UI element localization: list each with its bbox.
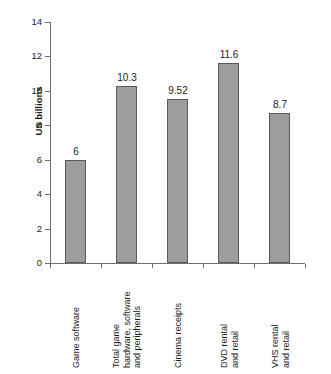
- y-axis-tick-label: 2: [12, 224, 42, 234]
- x-axis-tick: [305, 264, 306, 268]
- y-axis-tick-label: 10: [12, 86, 42, 96]
- x-axis-line: [50, 263, 305, 264]
- y-axis-tick-label: 4: [12, 189, 42, 199]
- y-axis-tick: [45, 91, 50, 92]
- bar-value-label: 10.3: [102, 72, 152, 83]
- y-axis-tick-label: 6: [12, 155, 42, 165]
- x-axis-category-label-line: and retail: [230, 268, 241, 368]
- y-axis-tick: [45, 125, 50, 126]
- x-axis-category-label-line: and peripherals: [132, 268, 143, 368]
- bar-value-label: 8.7: [255, 99, 305, 110]
- x-axis-category-label: DVD rentaland retail: [219, 268, 240, 368]
- x-axis-tick: [50, 264, 51, 268]
- y-axis-tick-label: 0: [12, 258, 42, 268]
- y-axis-line: [50, 22, 51, 264]
- bar-value-label: 9.52: [153, 85, 203, 96]
- x-axis-category-label: VHS rentaland retail: [270, 268, 291, 368]
- bar: [65, 160, 86, 263]
- x-axis-category-label-line: Cinema receipts: [173, 268, 184, 368]
- y-axis-tick-label: 14: [12, 17, 42, 27]
- y-axis-tick: [45, 22, 50, 23]
- x-axis-tick: [101, 264, 102, 268]
- x-axis-category-label-line: VHS rental: [270, 268, 281, 368]
- y-axis-tick-label-text: 14: [14, 17, 42, 27]
- y-axis-tick: [45, 194, 50, 195]
- x-axis-category-label-line: hardware, software: [122, 268, 133, 368]
- y-axis-tick: [45, 56, 50, 57]
- x-axis-tick: [203, 264, 204, 268]
- y-axis-tick: [45, 229, 50, 230]
- bar-value-label: 11.6: [204, 49, 254, 60]
- y-axis-tick-label-text: 12: [14, 51, 42, 61]
- x-axis-tick: [254, 264, 255, 268]
- bar-chart: US billions 02468101214 610.39.5211.68.7…: [0, 0, 331, 374]
- y-axis-tick-label-text: 2: [14, 224, 42, 234]
- y-axis-tick-label-text: 8: [14, 120, 42, 130]
- x-axis-category-label-line: Total game: [111, 268, 122, 368]
- bar-value-label: 6: [51, 146, 101, 157]
- bar: [116, 86, 137, 263]
- y-axis-tick-label-text: 6: [14, 155, 42, 165]
- bar: [269, 113, 290, 263]
- x-axis-category-label: Total gamehardware, softwareand peripher…: [111, 268, 143, 368]
- x-axis-category-label: Cinema receipts: [173, 268, 184, 368]
- y-axis-tick-label: 12: [12, 51, 42, 61]
- y-axis-tick-label-text: 10: [14, 86, 42, 96]
- y-axis-tick: [45, 160, 50, 161]
- y-axis-tick-label: 8: [12, 120, 42, 130]
- x-axis-category-label: Game software: [71, 268, 82, 368]
- bar: [167, 99, 188, 263]
- x-axis-category-label-line: and retail: [281, 268, 292, 368]
- y-axis-tick-label-text: 4: [14, 189, 42, 199]
- x-axis-category-label-line: Game software: [71, 268, 82, 368]
- x-axis-category-label-line: DVD rental: [219, 268, 230, 368]
- x-axis-tick: [152, 264, 153, 268]
- bar: [218, 63, 239, 263]
- y-axis-tick-label-text: 0: [14, 258, 42, 268]
